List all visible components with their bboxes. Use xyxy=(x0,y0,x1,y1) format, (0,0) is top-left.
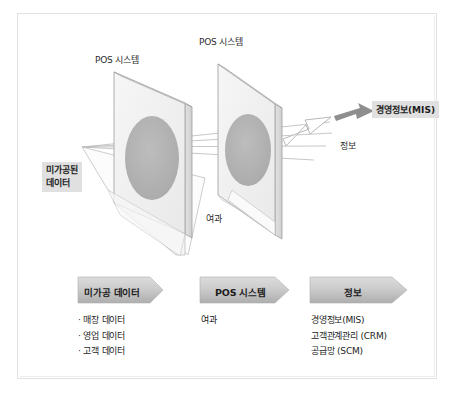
panel-1-data-ellipse xyxy=(125,116,179,200)
flow-step-2-label: POS 시스템 xyxy=(215,285,266,299)
information-outline-arrow xyxy=(283,117,331,146)
list-item: 경영정보(MIS) xyxy=(311,313,387,329)
list-item: · 영업 데이터 xyxy=(78,329,125,345)
raw-data-chip: 미가공된 데이터 xyxy=(42,162,82,192)
filter-label: 여과 xyxy=(206,213,222,225)
flow-step-3-items: 경영정보(MIS) 고객관계관리 (CRM) 공급망 (SCM) xyxy=(311,313,387,360)
list-item: · 고객 데이터 xyxy=(78,344,125,360)
list-item: 고객관계관리 (CRM) xyxy=(311,329,387,345)
diagram-canvas: POS 시스템 POS 시스템 미가공된 데이터 여과 정보 경영정보(MIS)… xyxy=(0,0,454,401)
raw-data-chip-line-1: 미가공된 xyxy=(46,164,78,177)
flow-step-3-label: 정보 xyxy=(344,285,362,299)
list-item: 공급망 (SCM) xyxy=(311,344,387,360)
mis-gray-arrow xyxy=(334,103,374,121)
flow-step-2-items: 여과 xyxy=(201,313,217,329)
panel-2-title-label: POS 시스템 xyxy=(199,36,243,48)
mis-chip: 경영정보(MIS) xyxy=(372,101,439,118)
flow-step-1-label: 미가공 데이터 xyxy=(84,285,140,299)
flow-step-1-items: · 매장 데이터 · 영업 데이터 · 고객 데이터 xyxy=(78,313,125,360)
list-item: 여과 xyxy=(201,313,217,329)
information-label: 정보 xyxy=(340,140,356,152)
panel-1-title-label: POS 시스템 xyxy=(95,54,139,66)
list-item: · 매장 데이터 xyxy=(78,313,125,329)
raw-data-chip-line-2: 데이터 xyxy=(46,177,78,190)
panel-2-data-ellipse xyxy=(225,114,271,186)
